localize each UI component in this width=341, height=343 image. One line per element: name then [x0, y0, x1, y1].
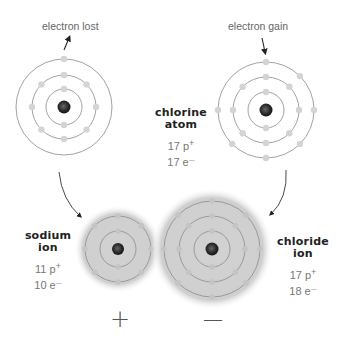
electron-gain-arrow-icon: [262, 38, 265, 52]
electron-icon: [209, 213, 215, 219]
electron-icon: [115, 264, 121, 270]
electron-icon: [209, 264, 215, 270]
electron-icon: [61, 86, 67, 92]
electron-icon: [297, 73, 303, 79]
negative-charge-sign: —: [203, 307, 223, 331]
electron-icon: [209, 228, 215, 234]
electron-icon: [175, 212, 181, 218]
electron-icon: [230, 107, 236, 113]
electron-icon: [61, 72, 67, 78]
name-line: ion: [272, 248, 334, 260]
chlorine-atom: [215, 59, 317, 161]
sodium-ion-counts: 11 p+ 10 e—: [22, 259, 74, 292]
electron-icon: [115, 213, 121, 219]
electron-icon: [83, 126, 89, 132]
electron-count: 17 e—: [150, 153, 212, 169]
electron-gain-label: electron gain: [228, 20, 288, 32]
electron-icon: [38, 126, 44, 132]
electron-icon: [186, 270, 192, 276]
electron-icon: [61, 56, 67, 62]
electron-icon: [243, 280, 249, 286]
sodium-atom: [16, 56, 112, 155]
electron-icon: [297, 141, 303, 147]
electron-icon: [29, 104, 35, 110]
electron-icon: [209, 294, 215, 300]
electron-icon: [61, 122, 67, 128]
chloride-ion-counts: 17 p+ 18 e—: [272, 265, 334, 298]
electron-icon: [175, 280, 181, 286]
positive-charge-sign: +: [110, 307, 130, 331]
electron-icon: [161, 246, 167, 252]
name-line: atom: [150, 119, 212, 131]
sodium-ion-name: sodium ion: [22, 230, 74, 254]
electron-icon: [92, 270, 98, 276]
electron-icon: [83, 81, 89, 87]
electron-count: 18 e—: [272, 282, 334, 298]
electron-icon: [115, 228, 121, 234]
chloride-ion: [151, 188, 273, 310]
electron-icon: [139, 223, 145, 229]
electron-icon: [242, 246, 248, 252]
electron-icon: [92, 223, 98, 229]
chlorine-atom-name: chlorine atom: [150, 107, 212, 131]
electron-icon: [209, 198, 215, 204]
electron-icon: [263, 125, 269, 131]
electron-icon: [61, 136, 67, 142]
electron-icon: [263, 89, 269, 95]
electron-icon: [263, 140, 269, 146]
electron-icon: [311, 107, 317, 113]
electron-lost-arrow-icon: [64, 38, 69, 50]
electron-icon: [263, 74, 269, 80]
electron-icon: [229, 141, 235, 147]
electron-icon: [286, 130, 292, 136]
nucleus-icon: [112, 243, 124, 255]
sodium-ion: [74, 205, 162, 293]
electron-lost-label: electron lost: [42, 20, 99, 32]
nucleus-icon: [58, 101, 71, 114]
electron-icon: [240, 84, 246, 90]
sodium-transition-arrow-icon: [59, 172, 80, 216]
electron-icon: [263, 59, 269, 65]
electron-icon: [263, 155, 269, 161]
electron-icon: [240, 130, 246, 136]
electron-icon: [186, 223, 192, 229]
electron-icon: [296, 107, 302, 113]
electron-icon: [215, 107, 221, 113]
nucleus-icon: [260, 104, 273, 117]
proton-count: 17 p+: [150, 136, 212, 153]
electron-icon: [82, 246, 88, 252]
electron-icon: [233, 270, 239, 276]
electron-icon: [257, 246, 263, 252]
electron-icon: [233, 223, 239, 229]
name-line: ion: [22, 242, 74, 254]
chlorine-transition-arrow-icon: [271, 170, 286, 214]
electron-icon: [139, 270, 145, 276]
electron-icon: [38, 81, 44, 87]
electron-count: 10 e—: [22, 276, 74, 292]
electron-icon: [243, 212, 249, 218]
electron-icon: [176, 246, 182, 252]
electron-icon: [286, 84, 292, 90]
chloride-ion-name: chloride ion: [272, 236, 334, 260]
nucleus-icon: [206, 243, 219, 256]
electron-icon: [93, 104, 99, 110]
proton-count: 11 p+: [22, 259, 74, 276]
electron-icon: [115, 279, 121, 285]
proton-count: 17 p+: [272, 265, 334, 282]
chlorine-atom-counts: 17 p+ 17 e—: [150, 136, 212, 169]
electron-icon: [209, 279, 215, 285]
